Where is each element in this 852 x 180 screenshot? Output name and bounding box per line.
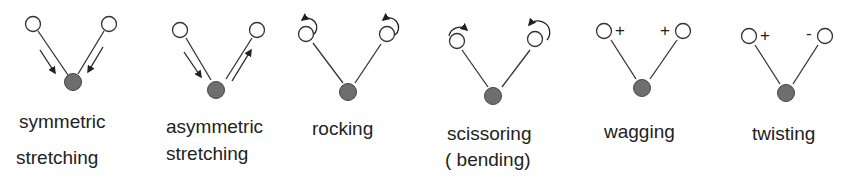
arrow-inward-left-icon: [184, 52, 201, 77]
mode-rocking: [299, 18, 399, 101]
sign-plus-left: +: [760, 27, 770, 44]
label-wagging: wagging: [604, 122, 675, 141]
hydrogen-atom-right: [102, 17, 117, 32]
bond-right: [650, 40, 677, 79]
hydrogen-atom-left: [173, 23, 188, 38]
carbon-atom-center: [340, 84, 357, 101]
vibrational-modes-diagram: + + + - symmetric stretching asymmetric …: [0, 0, 852, 180]
label-stretching: stretching: [166, 144, 248, 163]
hydrogen-atom-right: [380, 27, 395, 42]
bond-left: [611, 40, 636, 79]
mode-asymmetric-stretching: [173, 23, 265, 99]
carbon-atom-center: [65, 74, 82, 91]
bond-right: [226, 38, 252, 79]
hydrogen-atom-right: [250, 23, 265, 38]
label-asymmetric: asymmetric: [166, 117, 263, 136]
hydrogen-atom-right: [818, 29, 833, 44]
label-stretching: stretching: [16, 148, 98, 167]
carbon-atom-center: [485, 88, 502, 105]
bond-right: [355, 44, 381, 83]
hydrogen-atom-right: [528, 32, 543, 47]
bond-left: [462, 50, 488, 87]
diagram-canvas: [0, 0, 852, 180]
bond-left: [755, 45, 780, 84]
mode-twisting: [742, 29, 833, 102]
hydrogen-atom-right: [676, 24, 691, 39]
sign-plus-right: +: [660, 22, 670, 39]
bond-right: [502, 50, 530, 87]
mode-scissoring: [449, 21, 550, 105]
mode-symmetric-stretching: [26, 17, 117, 91]
sign-minus-right: -: [806, 25, 812, 42]
hydrogen-atom-left: [597, 24, 612, 39]
hydrogen-atom-left: [299, 27, 314, 42]
hydrogen-atom-left: [742, 29, 757, 44]
label-symmetric: symmetric: [19, 112, 106, 131]
arrow-inward-right-icon: [88, 47, 103, 72]
label-bending: ( bending): [445, 150, 531, 169]
bond-right: [793, 45, 818, 84]
hydrogen-atom-left: [450, 34, 465, 49]
sign-plus-left: +: [615, 22, 625, 39]
label-twisting: twisting: [752, 124, 815, 143]
carbon-atom-center: [208, 82, 225, 99]
label-scissoring: scissoring: [447, 124, 531, 143]
mode-wagging: [597, 24, 691, 97]
hydrogen-atom-left: [26, 17, 41, 32]
label-rocking: rocking: [312, 119, 373, 138]
carbon-atom-center: [634, 80, 651, 97]
bond-left: [313, 43, 343, 83]
carbon-atom-center: [778, 85, 795, 102]
